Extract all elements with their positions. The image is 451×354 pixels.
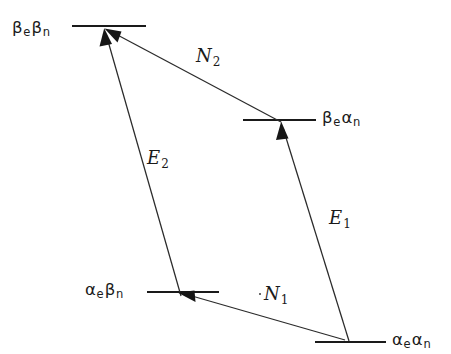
- transition-label-n2-main: N: [196, 45, 212, 66]
- diagram-canvas: [0, 0, 451, 354]
- transition-label-e2: E2: [147, 149, 169, 170]
- transition-label-n2-sub: 2: [212, 55, 221, 69]
- transition-label-e1: E1: [329, 209, 351, 230]
- transition-label-n1-main: N: [264, 283, 280, 304]
- state-label-beta-e-alpha-n-sub-1: e: [333, 115, 342, 129]
- state-label-alpha-e-alpha-n-main-1: α: [392, 330, 403, 349]
- state-label-beta-e-beta-n-main-2: β: [32, 18, 43, 37]
- transition-label-n1: N1: [264, 285, 288, 306]
- arrow-head-e1: [276, 122, 289, 141]
- scan-speck: [259, 293, 261, 295]
- state-label-beta-e-beta-n-sub-2: n: [42, 25, 51, 39]
- transition-arrow-n2: [105, 29, 282, 123]
- transition-label-e2-sub: 2: [160, 157, 169, 171]
- state-label-beta-e-alpha-n-main-1: β: [322, 108, 333, 127]
- state-label-beta-e-alpha-n: βeαn: [322, 110, 362, 129]
- state-label-beta-e-beta-n-main-1: β: [12, 18, 23, 37]
- transition-arrow-n1: [178, 291, 346, 341]
- state-label-alpha-e-alpha-n-sub-1: e: [403, 337, 412, 351]
- transition-label-n2: N2: [196, 47, 220, 68]
- state-label-beta-e-alpha-n-sub-2: n: [353, 115, 362, 129]
- transition-line-e1: [283, 128, 349, 341]
- state-label-alpha-e-alpha-n-sub-2: n: [423, 337, 432, 351]
- state-label-beta-e-beta-n: βeβn: [12, 20, 51, 39]
- transition-label-n1-sub: 1: [280, 293, 289, 307]
- energy-level-diagram: βeβn βeαn αeβn αeαn N2 E2 E1 N1: [0, 0, 451, 354]
- state-label-alpha-e-beta-n-main-2: β: [105, 280, 116, 299]
- transition-arrow-e1: [276, 122, 349, 342]
- transition-label-e1-main: E: [329, 207, 342, 228]
- state-label-alpha-e-beta-n: αeβn: [85, 282, 125, 301]
- arrow-head-n1: [178, 291, 196, 303]
- state-label-alpha-e-beta-n-sub-1: e: [96, 287, 105, 301]
- state-label-alpha-e-beta-n-sub-2: n: [116, 287, 125, 301]
- transition-arrows: [100, 28, 350, 341]
- state-label-alpha-e-beta-n-main-1: α: [85, 280, 96, 299]
- transition-label-e2-main: E: [147, 147, 160, 168]
- transition-line-e2: [106, 34, 181, 296]
- state-label-alpha-e-alpha-n: αeαn: [392, 332, 432, 351]
- state-label-beta-e-alpha-n-main-2: α: [342, 108, 353, 127]
- state-label-beta-e-beta-n-sub-1: e: [23, 25, 32, 39]
- transition-label-e1-sub: 1: [342, 217, 351, 231]
- state-label-alpha-e-alpha-n-main-2: α: [412, 330, 423, 349]
